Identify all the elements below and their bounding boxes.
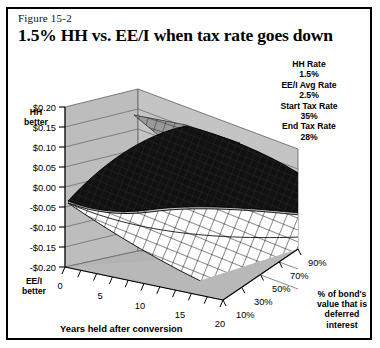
x-tick-1: 5 xyxy=(97,291,102,301)
x-tick-3: 15 xyxy=(175,310,185,320)
surface-plot-svg: $0.20 $0.15 $0.10 $0.05 $0.00 -$0.05 -$0… xyxy=(8,53,370,340)
y-tick-1: $0.15 xyxy=(33,123,56,133)
x-tick-4: 20 xyxy=(215,319,225,329)
x-tick-0: 0 xyxy=(57,281,62,291)
y-tick-0: $0.20 xyxy=(33,103,56,113)
y-tick-4: $0.00 xyxy=(33,183,56,193)
y-tick-5: -$0.05 xyxy=(30,203,56,213)
y-axis-tick-labels: $0.20 $0.15 $0.10 $0.05 $0.00 -$0.05 -$0… xyxy=(30,103,56,273)
y-tick-2: $0.10 xyxy=(33,143,56,153)
y-tick-7: -$0.15 xyxy=(30,243,56,253)
y-tick-8: -$0.20 xyxy=(30,263,56,273)
y-axis-ticks xyxy=(59,107,65,267)
x-tick-2: 10 xyxy=(135,301,145,311)
figure-title: 1.5% HH vs. EE/I when tax rate goes down xyxy=(18,25,333,46)
figure-frame: Figure 15-2 1.5% HH vs. EE/I when tax ra… xyxy=(6,7,372,340)
surface-plot: $0.20 $0.15 $0.10 $0.05 $0.00 -$0.05 -$0… xyxy=(8,53,370,340)
z-tick-2: 50% xyxy=(272,284,291,294)
z-tick-1: 30% xyxy=(254,297,273,307)
z-tick-3: 70% xyxy=(290,271,309,281)
y-tick-3: $0.05 xyxy=(33,163,56,173)
figure-number: Figure 15-2 xyxy=(18,12,72,24)
y-tick-6: -$0.10 xyxy=(30,223,56,233)
z-tick-0: 10% xyxy=(236,310,255,320)
z-tick-4: 90% xyxy=(308,258,327,268)
